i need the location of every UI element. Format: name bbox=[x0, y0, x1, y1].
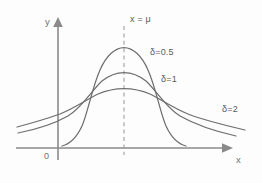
x-axis-label: x bbox=[236, 155, 241, 165]
series-label-sigma-1: δ=1 bbox=[161, 75, 177, 84]
origin-label: 0 bbox=[44, 152, 49, 161]
series-label-sigma-0-5: δ=0.5 bbox=[150, 48, 174, 57]
figure-canvas bbox=[0, 0, 262, 183]
curve-sigma-1 bbox=[18, 73, 236, 137]
normal-distribution-figure: y x 0 x = μ δ=0.5 δ=1 δ=2 bbox=[0, 0, 262, 183]
series-label-sigma-2: δ=2 bbox=[222, 105, 238, 114]
y-axis-arrowhead bbox=[53, 17, 63, 27]
x-axis-arrowhead bbox=[222, 143, 233, 153]
mean-line-label: x = μ bbox=[130, 15, 151, 24]
y-axis-label: y bbox=[45, 17, 50, 27]
